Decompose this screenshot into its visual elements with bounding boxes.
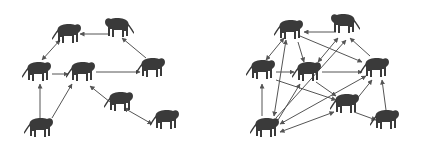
arrow-edge — [274, 40, 286, 116]
monkey-icon — [135, 58, 165, 77]
monkey-icon — [105, 18, 135, 37]
monkey-icon — [329, 94, 359, 113]
monkey-icon — [51, 24, 81, 43]
monkey-icon — [359, 58, 389, 77]
arrow-edge — [122, 38, 146, 58]
arrow-edge — [124, 108, 152, 124]
arrow-edge — [382, 80, 386, 110]
monkey-icon — [245, 60, 275, 79]
arrow-edge — [350, 38, 370, 56]
arrow-edge — [266, 38, 284, 60]
arrow-edge — [318, 38, 338, 62]
monkey-icon — [103, 92, 133, 111]
arrow-edge — [280, 112, 334, 132]
monkey-icon — [291, 62, 321, 81]
monkey-icon — [65, 62, 95, 81]
monkey-icon — [273, 20, 303, 39]
monkey-icon — [249, 118, 279, 137]
monkey-icon — [331, 14, 361, 33]
arrow-edge — [298, 42, 304, 62]
monkey-network-figure — [0, 0, 426, 151]
arrow-edge — [42, 40, 60, 60]
monkey-icon — [369, 110, 399, 129]
arrow-edge — [52, 84, 72, 118]
arrow-edge — [90, 86, 110, 102]
nodes-layer — [21, 14, 399, 137]
monkey-icon — [21, 62, 51, 81]
sparse-network-edges — [40, 34, 152, 124]
dense-network-edges — [262, 32, 386, 132]
sparse-network-nodes — [21, 18, 179, 137]
edges-layer — [40, 32, 386, 132]
monkey-icon — [149, 110, 179, 129]
arrow-edge — [354, 112, 376, 120]
network-diagrams — [0, 0, 426, 151]
monkey-icon — [23, 118, 53, 137]
